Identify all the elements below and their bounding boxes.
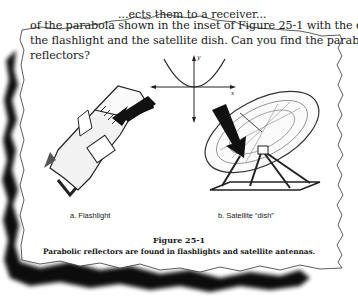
paragraph-line: of the parabola shown in the inset of Fi…	[30, 18, 330, 33]
paragraph-line: reflectors?	[30, 48, 330, 63]
paragraph-line: the flashlight and the satellite dish. C…	[30, 33, 330, 48]
figure-title: Figure 25-1	[0, 235, 358, 245]
figure-caption: Parabolic reflectors are found in flashl…	[0, 247, 358, 256]
y-axis-label: y	[197, 53, 200, 60]
panel-b-label: b. Satellite “dish”	[218, 211, 274, 220]
x-axis-label: x	[231, 89, 234, 96]
panel-a-label: a. Flashlight	[70, 211, 110, 220]
body-paragraph: of the parabola shown in the inset of Fi…	[30, 18, 330, 63]
torn-page-excerpt: ...ects them to a receiver... of the par…	[0, 0, 358, 296]
